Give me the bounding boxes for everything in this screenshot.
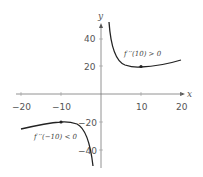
x-tick-label: 20 (176, 102, 188, 112)
chart-canvas: x y −20 −10 10 20 40 20 −20 −40 f ′′(10)… (0, 0, 203, 177)
y-axis-label: y (97, 11, 104, 21)
curve-negative-branch (21, 122, 93, 166)
point-local-min (139, 65, 142, 68)
x-axis-label: x (187, 89, 192, 99)
y-tick-label: 20 (84, 62, 96, 72)
y-tick-label: −40 (78, 146, 97, 156)
point-local-max (59, 120, 62, 123)
curve-positive-branch (109, 22, 181, 67)
x-tick-label: −10 (52, 102, 71, 112)
y-axis-arrow-icon (99, 23, 103, 28)
annotation-concave-up: f ′′(10) > 0 (123, 50, 162, 58)
y-tick-label: 40 (84, 34, 96, 44)
annotation-concave-down: f ′′(−10) < 0 (33, 133, 78, 141)
x-tick-label: −20 (12, 102, 31, 112)
x-tick-label: 10 (136, 102, 148, 112)
